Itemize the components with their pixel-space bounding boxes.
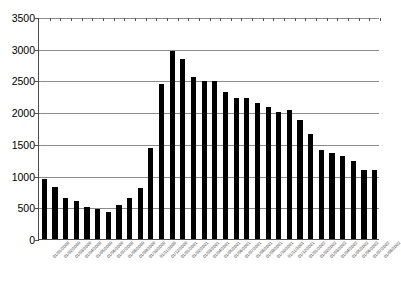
plot-area (38, 18, 379, 240)
y-axis-tick-label: 3500 (12, 13, 35, 24)
bar (170, 51, 175, 239)
x-tick-mark (50, 18, 51, 21)
x-tick-mark (167, 18, 168, 21)
x-tick-mark (135, 18, 136, 21)
bar (191, 77, 196, 239)
x-tick-mark (231, 18, 232, 21)
bar (351, 161, 356, 239)
y-axis-tick-label: 1000 (12, 171, 35, 182)
bar (138, 188, 143, 239)
y-axis-tick-label: 2500 (12, 76, 35, 87)
bar (276, 112, 281, 239)
x-tick-mark (178, 18, 179, 21)
x-tick-mark (284, 18, 285, 21)
bar (266, 107, 271, 239)
bar (127, 198, 132, 239)
bar (159, 84, 164, 239)
bar (52, 187, 57, 239)
y-axis-tick-label: 3000 (12, 44, 35, 55)
bar (63, 198, 68, 239)
x-tick-mark (263, 18, 264, 21)
x-tick-mark (337, 18, 338, 21)
bar (223, 92, 228, 239)
x-tick-mark (199, 18, 200, 21)
bar (319, 150, 324, 239)
x-tick-mark (71, 18, 72, 21)
bar (212, 81, 217, 239)
bar (297, 120, 302, 239)
x-tick-mark (252, 18, 253, 21)
x-tick-mark (82, 18, 83, 21)
bar (234, 98, 239, 239)
x-tick-mark (92, 18, 93, 21)
x-tick-mark (103, 18, 104, 21)
y-axis-tick-label: 1500 (12, 140, 35, 151)
x-tick-mark (156, 18, 157, 21)
bar (340, 156, 345, 239)
bar (372, 170, 377, 239)
y-axis-tick-label: 500 (17, 203, 35, 214)
x-tick-mark (210, 18, 211, 21)
x-tick-mark (369, 18, 370, 21)
x-tick-mark (188, 18, 189, 21)
x-tick-mark (316, 18, 317, 21)
bar (116, 205, 121, 239)
bar (74, 201, 79, 239)
x-tick-mark (380, 18, 381, 21)
bar (42, 179, 47, 239)
x-tick-mark (348, 18, 349, 21)
bar (287, 110, 292, 239)
bar (95, 209, 100, 239)
y-axis-tick-label: 2000 (12, 108, 35, 119)
bars-container (39, 18, 379, 239)
bar (308, 134, 313, 239)
x-tick-mark (273, 18, 274, 21)
x-tick-mark (295, 18, 296, 21)
bar (255, 103, 260, 239)
bar (361, 170, 366, 239)
bar (244, 98, 249, 239)
x-tick-mark (146, 18, 147, 21)
x-axis-labels: 01/01/200001/02/200001/03/200001/04/2000… (38, 241, 379, 285)
bar (180, 59, 185, 239)
bar (202, 81, 207, 239)
x-tick-mark (305, 18, 306, 21)
bar (84, 207, 89, 239)
x-tick-mark (114, 18, 115, 21)
x-tick-mark (241, 18, 242, 21)
x-tick-mark (327, 18, 328, 21)
bar (329, 153, 334, 239)
bar (148, 148, 153, 239)
x-tick-mark (124, 18, 125, 21)
x-tick-mark (359, 18, 360, 21)
x-tick-mark (60, 18, 61, 21)
x-tick-mark (220, 18, 221, 21)
bar (106, 212, 111, 239)
